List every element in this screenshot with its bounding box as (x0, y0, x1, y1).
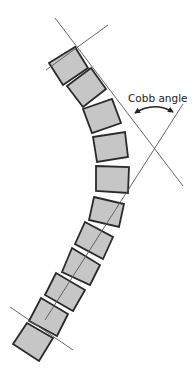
angle-arc-double-arrow-icon (135, 107, 173, 113)
spine-figure (0, 0, 195, 378)
vertebra-6 (89, 197, 124, 227)
vertebra-4 (93, 132, 128, 162)
vertebra-5 (96, 166, 129, 193)
vertebral-column (13, 47, 129, 361)
cobb-angle-label: Cobb angle (128, 93, 188, 104)
cobb-angle-diagram: Cobb angle (0, 0, 195, 378)
vertebra-3 (83, 99, 121, 133)
